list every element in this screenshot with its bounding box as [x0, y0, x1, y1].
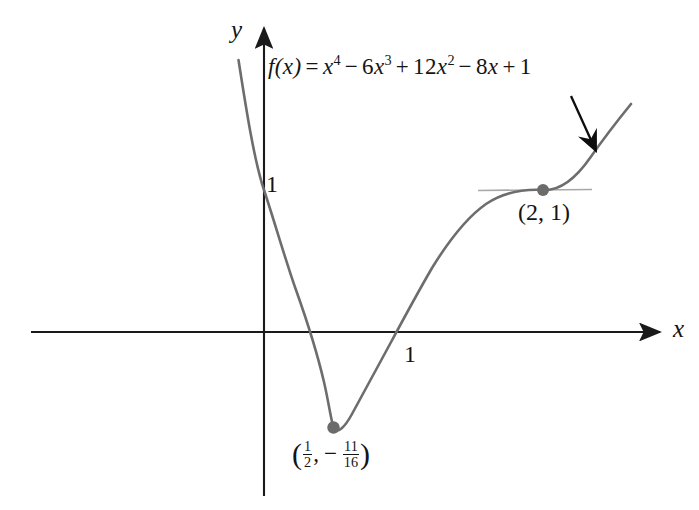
equation-term2-exponent: 3: [385, 52, 392, 68]
minimum-label-x-numerator: 1: [303, 439, 312, 454]
x-axis-tick-label-1: 1: [404, 342, 416, 366]
minimum-label-minus: −: [321, 442, 342, 465]
equation-constant-term: 1: [520, 54, 532, 79]
equation-term1-base: x: [323, 54, 334, 79]
minimum-label-y-fraction: 11 16: [343, 439, 359, 469]
minimum-point-label: ( 1 2 , − 11 16 ): [292, 438, 370, 468]
equation-operator-2: +: [392, 54, 413, 79]
minimum-label-close-paren: ): [360, 440, 370, 467]
inflection-point-label: (2, 1): [518, 200, 570, 224]
equation-operator-4: +: [498, 54, 519, 79]
equation-equals: =: [302, 54, 323, 79]
minimum-label-comma: ,: [313, 442, 321, 465]
equation-term2-base: x: [374, 54, 385, 79]
equation-term2-coefficient: 6: [362, 54, 374, 79]
minimum-label-open-paren: (: [292, 440, 302, 467]
equation-term4-base: x: [488, 54, 499, 79]
equation-operator-3: −: [455, 54, 476, 79]
callout-arrow: [571, 96, 596, 151]
minimum-label-y-denominator: 16: [343, 454, 359, 470]
minimum-label-y-numerator: 11: [343, 439, 359, 454]
equation-term1-exponent: 4: [334, 52, 341, 68]
equation-operator-1: −: [341, 54, 362, 79]
inflection-point-dot: [537, 184, 549, 196]
equation-term3-exponent: 2: [447, 52, 454, 68]
minimum-label-x-denominator: 2: [303, 454, 312, 470]
equation-argument: (x): [275, 54, 302, 79]
minimum-label-x-fraction: 1 2: [303, 439, 312, 469]
function-equation: f(x)=x4−6x3+12x2−8x+1: [268, 53, 532, 78]
y-axis-label: y: [231, 17, 242, 42]
y-axis-tick-label-1: 1: [266, 172, 278, 196]
equation-function-name: f: [268, 54, 275, 79]
equation-term3-base: x: [437, 54, 448, 79]
quartic-curve: [239, 60, 632, 430]
equation-term4-coefficient: 8: [476, 54, 488, 79]
x-axis-label: x: [673, 316, 684, 341]
minimum-point-dot: [327, 421, 339, 433]
equation-term3-coefficient: 12: [413, 54, 437, 79]
